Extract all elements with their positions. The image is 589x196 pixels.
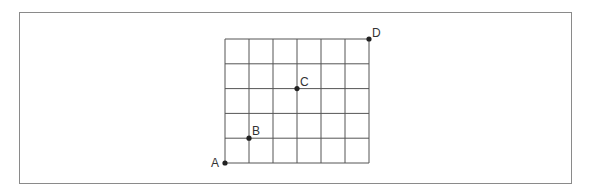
point-marker bbox=[246, 136, 251, 141]
point-marker bbox=[366, 36, 371, 41]
grid-lines bbox=[225, 39, 369, 163]
point-d: D bbox=[366, 26, 381, 42]
point-marker bbox=[222, 160, 227, 165]
point-label: A bbox=[211, 156, 219, 170]
point-label: C bbox=[300, 75, 309, 89]
point-label: D bbox=[372, 26, 381, 40]
points: ABCD bbox=[211, 26, 381, 170]
grid-diagram: ABCD bbox=[0, 0, 589, 196]
point-label: B bbox=[252, 124, 260, 138]
point-marker bbox=[294, 86, 299, 91]
